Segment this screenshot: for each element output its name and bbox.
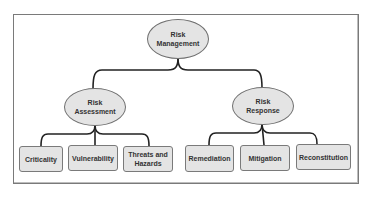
node-label: Vulnerability bbox=[72, 154, 114, 163]
node-risk-response: Risk Response bbox=[232, 87, 294, 125]
node-criticality: Criticality bbox=[19, 146, 63, 172]
node-label: Threats and Hazards bbox=[128, 150, 168, 168]
node-label: Risk Response bbox=[246, 97, 279, 115]
node-mitigation: Mitigation bbox=[240, 145, 290, 171]
node-threats-and-hazards: Threats and Hazards bbox=[123, 146, 173, 172]
node-label: Risk Management bbox=[157, 30, 200, 48]
node-label: Criticality bbox=[25, 155, 57, 164]
node-label: Risk Assessment bbox=[74, 98, 115, 116]
connector-assessment-to-threats bbox=[95, 125, 149, 146]
node-label: Reconstitution bbox=[299, 153, 348, 162]
node-vulnerability: Vulnerability bbox=[68, 145, 118, 171]
node-reconstitution: Reconstitution bbox=[296, 144, 351, 170]
connector-root-to-response bbox=[178, 58, 262, 88]
connector-response-to-reconstitution bbox=[262, 124, 317, 144]
connector-assessment-to-criticality bbox=[41, 125, 95, 146]
node-risk-assessment: Risk Assessment bbox=[64, 88, 126, 126]
node-risk-management: Risk Management bbox=[147, 19, 209, 59]
node-label: Remediation bbox=[188, 154, 230, 163]
node-label: Mitigation bbox=[248, 154, 281, 163]
connector-root-to-assessment bbox=[93, 58, 178, 89]
connector-response-to-remediation bbox=[209, 124, 262, 145]
node-remediation: Remediation bbox=[185, 145, 234, 172]
